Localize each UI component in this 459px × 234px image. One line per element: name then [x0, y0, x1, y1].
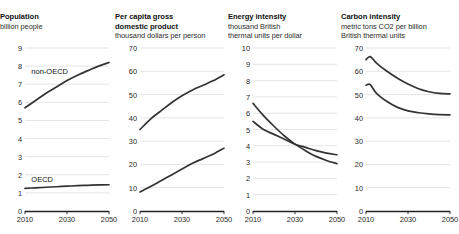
series-line [253, 103, 337, 163]
panel-population: Population billion people 01234567892010… [0, 0, 115, 234]
plot-area-population: 0123456789201020302050non-OECDOECD [25, 48, 109, 211]
x-axis-tick-label: 2030 [287, 215, 303, 224]
panel-title-main: Carbon intensity [341, 12, 459, 22]
y-axis-tick-label: 9 [18, 44, 22, 53]
x-axis-tick-label: 2030 [400, 215, 416, 224]
x-axis-tick-label: 2010 [245, 215, 261, 224]
panel-energy-intensity: Energy intensity thousand British therma… [228, 0, 341, 234]
plot-area-energy-intensity: 012345678910201020302050 [253, 48, 337, 211]
panel-carbon-intensity: Carbon intensity metric tons CO2 per bil… [341, 0, 457, 234]
y-axis-tick-label: 2 [18, 170, 22, 179]
y-axis-tick-label: 6 [246, 109, 250, 118]
y-axis-tick-label: 1 [246, 190, 250, 199]
y-axis-tick-label: 8 [246, 76, 250, 85]
y-axis-tick-label: 9 [246, 60, 250, 69]
panel-title-main: Population [0, 12, 118, 22]
y-axis-tick-label: 30 [129, 137, 137, 146]
y-axis-tick-label: 3 [18, 152, 22, 161]
plot-svg [253, 48, 337, 211]
y-axis-tick-label: 7 [18, 80, 22, 89]
series-annotation-label: non-OECD [31, 66, 68, 75]
x-axis-tick-label: 2010 [358, 215, 374, 224]
y-axis-tick-label: 5 [246, 125, 250, 134]
series-line [140, 148, 224, 192]
y-axis-tick-label: 3 [246, 158, 250, 167]
y-axis-tick-label: 60 [355, 67, 363, 76]
plot-area-carbon-intensity: 010203040506070201020302050 [366, 48, 450, 211]
y-axis-tick-label: 20 [355, 160, 363, 169]
y-axis-tick-label: 40 [355, 113, 363, 122]
y-axis-tick-label: 4 [18, 134, 22, 143]
panel-title-subtitle: thousand dollars per person [115, 31, 233, 41]
panel-title-carbon-intensity: Carbon intensity metric tons CO2 per bil… [341, 12, 459, 41]
panel-title-main: Per capita gross domestic product [115, 12, 233, 31]
y-axis-tick-label: 40 [129, 113, 137, 122]
panel-title-population: Population billion people [0, 12, 118, 31]
series-line [366, 84, 450, 115]
y-axis-tick-label: 50 [355, 90, 363, 99]
y-axis-tick-label: 20 [129, 160, 137, 169]
y-axis-tick-label: 10 [242, 44, 250, 53]
series-line [140, 75, 224, 130]
plot-svg [140, 48, 224, 211]
y-axis-tick-label: 2 [246, 174, 250, 183]
y-axis-tick-label: 70 [355, 44, 363, 53]
y-axis-tick-label: 1 [18, 188, 22, 197]
y-axis-tick-label: 4 [246, 141, 250, 150]
panel-title-energy-intensity: Energy intensity thousand British therma… [228, 12, 346, 41]
x-axis-tick-label: 2030 [59, 215, 75, 224]
x-axis-tick-label: 2010 [17, 215, 33, 224]
panel-gdp: Per capita gross domestic product thousa… [115, 0, 228, 234]
y-axis-tick-label: 10 [355, 183, 363, 192]
series-annotation-label: OECD [31, 175, 53, 184]
panel-title-subtitle: thousand British thermal units per dolla… [228, 22, 346, 41]
x-axis-tick-label: 2010 [132, 215, 148, 224]
y-axis-tick-label: 60 [129, 67, 137, 76]
series-line [25, 185, 109, 189]
panel-title-subtitle: metric tons CO2 per billion British ther… [341, 22, 459, 41]
y-axis-tick-label: 70 [129, 44, 137, 53]
panel-title-main: Energy intensity [228, 12, 346, 22]
panel-title-subtitle: billion people [0, 22, 118, 32]
y-axis-tick-label: 8 [18, 62, 22, 71]
panel-title-gdp: Per capita gross domestic product thousa… [115, 12, 233, 41]
y-axis-tick-label: 30 [355, 137, 363, 146]
y-axis-tick-label: 6 [18, 98, 22, 107]
plot-area-gdp: 010203040506070201020302050 [140, 48, 224, 211]
y-axis-tick-label: 7 [246, 92, 250, 101]
plot-svg [366, 48, 450, 211]
y-axis-tick-label: 5 [18, 116, 22, 125]
series-line [253, 121, 337, 154]
series-line [366, 57, 450, 94]
x-axis-tick-label: 2030 [174, 215, 190, 224]
x-axis-tick-label: 2050 [442, 215, 458, 224]
y-axis-tick-label: 50 [129, 90, 137, 99]
y-axis-tick-label: 10 [129, 183, 137, 192]
